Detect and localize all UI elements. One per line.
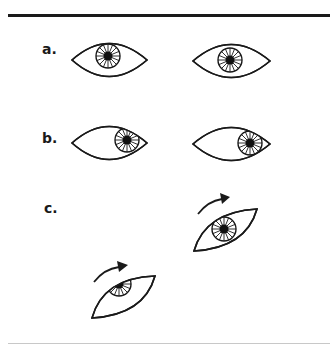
eye-illustrations [0, 0, 336, 345]
eye-diagram-figure: a. b. c. [0, 0, 336, 345]
eye-b-right [193, 128, 270, 161]
eye-c-left [92, 261, 155, 318]
bottom-rule [8, 343, 330, 344]
rotation-arrow-icon [198, 199, 222, 214]
eye-a-right [193, 45, 270, 78]
eye-a-left [72, 44, 147, 77]
rotation-arrow-icon [94, 267, 119, 282]
eye-b-left [72, 127, 147, 160]
eye-c-right [194, 193, 257, 251]
